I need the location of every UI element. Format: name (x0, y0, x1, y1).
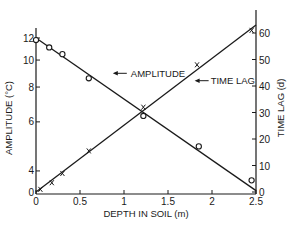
right-axis-ticks: 0102030405060 (252, 28, 271, 198)
amplitude-point (33, 37, 38, 42)
annotations: AMPLITUDETIME LAG (113, 68, 255, 86)
y-tick-label: 6 (28, 116, 34, 127)
amplitude-label: AMPLITUDE (131, 68, 185, 79)
x-tick-label: 1 (121, 196, 127, 207)
x-tick-label: 0.5 (73, 196, 87, 207)
y2-tick-label: 60 (259, 28, 271, 39)
y2-tick-label: 20 (259, 134, 271, 145)
amplitude-point (60, 52, 65, 57)
arrowhead-icon (113, 71, 118, 75)
time-lag-point (195, 62, 199, 67)
y2-tick-label: 40 (259, 81, 271, 92)
amplitude-point (141, 113, 146, 118)
series-layer (33, 25, 256, 192)
amplitude-point (196, 144, 201, 149)
amplitude-point (249, 178, 254, 183)
y2-tick-label: 30 (259, 108, 271, 119)
time-lag-point (141, 105, 145, 110)
y2-tick-label: 10 (259, 161, 271, 172)
y2-axis-title: TIME LAG (d) (275, 79, 286, 138)
y-origin-label: 0 (28, 187, 34, 198)
arrowhead-icon (195, 79, 200, 83)
y-tick-label: 12 (23, 33, 35, 44)
left-axis-ticks: 46810120 (23, 33, 40, 199)
y-tick-label: 4 (28, 165, 34, 176)
y-tick-label: 10 (23, 55, 35, 66)
x-tick-label: 0 (33, 196, 39, 207)
y2-tick-label: 50 (259, 55, 271, 66)
y-axis-title: AMPLITUDE (°C) (3, 81, 14, 155)
x-tick-label: 1.5 (161, 196, 175, 207)
amplitude-point (47, 45, 52, 50)
x-axis-ticks: 00.511.522.5 (33, 190, 263, 207)
y-tick-label: 8 (28, 82, 34, 93)
x-tick-label: 2 (209, 196, 215, 207)
time-lag-point (50, 180, 54, 185)
amplitude-point (86, 76, 91, 81)
time-lag-label: TIME LAG (211, 75, 255, 86)
x-axis-title: DEPTH IN SOIL (m) (103, 208, 188, 219)
y2-tick-label: 0 (259, 187, 265, 198)
chart: 00.511.522.5 46810120 0102030405060 AMPL… (0, 0, 291, 227)
